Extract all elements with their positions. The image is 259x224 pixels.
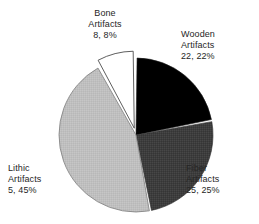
- pie-label-fiber-name-line2: Artifacts: [186, 174, 220, 185]
- pie-label-bone-value: 8, 8%: [74, 30, 136, 41]
- pie-label-lithic-name-line1: Lithic: [8, 163, 41, 174]
- pie-label-bone-artifacts: Bone Artifacts 8, 8%: [74, 8, 136, 41]
- pie-label-lithic-value: 5, 45%: [8, 185, 41, 196]
- pie-chart-figure: Wooden Artifacts 22, 22% Fiber Artifacts…: [0, 0, 259, 224]
- pie-label-wooden-name-line1: Wooden: [181, 29, 215, 40]
- pie-label-bone-name-line1: Bone: [74, 8, 136, 19]
- pie-label-lithic-artifacts: Lithic Artifacts 5, 45%: [8, 163, 41, 196]
- pie-label-wooden-value: 22, 22%: [181, 51, 215, 62]
- pie-slice-lithic-artifacts[interactable]: [59, 68, 149, 212]
- pie-label-fiber-name-line1: Fiber: [186, 163, 220, 174]
- pie-label-fiber-artifacts: Fiber Artifacts 25, 25%: [186, 163, 220, 196]
- pie-label-lithic-name-line2: Artifacts: [8, 174, 41, 185]
- pie-label-fiber-value: 25, 25%: [186, 185, 220, 196]
- pie-label-wooden-artifacts: Wooden Artifacts 22, 22%: [181, 29, 215, 62]
- pie-label-wooden-name-line2: Artifacts: [181, 40, 215, 51]
- pie-label-bone-name-line2: Artifacts: [74, 19, 136, 30]
